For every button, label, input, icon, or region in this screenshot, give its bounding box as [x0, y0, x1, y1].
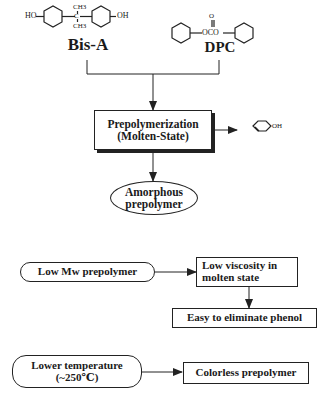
phenol-oh-group: OH [272, 122, 282, 130]
low-viscosity-box: Low viscosity in molten state [196, 257, 298, 287]
bisa-bottom-methyl: CH3 [73, 22, 86, 30]
lower-temperature-line1: Lower temperature [31, 360, 123, 372]
prepolymerization-box: Prepolymerization (Molten-State) [94, 110, 212, 150]
lower-temperature-line2: (~250℃) [56, 372, 99, 384]
process-line2: (Molten-State) [117, 130, 189, 142]
easy-eliminate-label: Easy to eliminate phenol [187, 312, 302, 324]
dpc-label: DPC [200, 39, 240, 56]
bisa-top-methyl: CH3 [73, 3, 86, 11]
bisa-ho-group: HO [25, 11, 37, 20]
phenol-structure [253, 121, 271, 131]
colorless-prepolymer-label: Colorless prepolymer [196, 367, 297, 379]
low-mw-label: Low Mw prepolymer [38, 266, 137, 278]
bisa-oh-group: OH [117, 11, 129, 20]
amorphous-prepolymer-ellipse: Amorphous prepolymer [110, 181, 198, 215]
colorless-prepolymer-box: Colorless prepolymer [183, 362, 309, 384]
low-mw-prepolymer-node: Low Mw prepolymer [20, 262, 155, 282]
product-line1: Amorphous [125, 186, 183, 198]
dpc-carbonyl-oxygen: O [209, 12, 214, 20]
lower-temperature-node: Lower temperature (~250℃) [12, 355, 142, 388]
low-viscosity-line2: molten state [202, 272, 259, 284]
process-line1: Prepolymerization [107, 118, 198, 130]
bisa-label: Bis-A [60, 35, 116, 55]
easy-eliminate-phenol-box: Easy to eliminate phenol [172, 308, 317, 328]
dpc-linker: OCO [202, 28, 219, 37]
product-line2: prepolymer [125, 198, 182, 210]
bisa-center-carbon: C [74, 12, 79, 20]
